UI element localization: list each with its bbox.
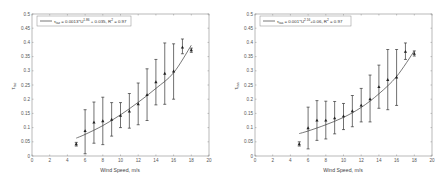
triangle-marker [101, 119, 104, 122]
x-tick-label: 16 [394, 158, 400, 163]
y-tick-label: 0.35 [244, 54, 253, 59]
chart-panel-right: 00.050.10.150.20.250.30.350.40.450.5 024… [224, 0, 447, 177]
triangle-marker [360, 104, 363, 107]
x-tick-label: 10 [118, 158, 124, 163]
axes-box [255, 14, 432, 156]
x-tick-label: 18 [412, 158, 418, 163]
y-ticks: 00.050.10.150.20.250.30.350.40.450.5 [244, 12, 432, 159]
x-tick-label: 20 [429, 158, 435, 163]
y-tick-label: 0.1 [247, 125, 254, 130]
axes-box [32, 14, 209, 156]
x-tick-label: 2 [48, 158, 51, 163]
x-tick-label: 12 [359, 158, 365, 163]
x-tick-label: 20 [206, 158, 212, 163]
triangle-marker [307, 126, 310, 129]
y-tick-label: 0.25 [21, 83, 30, 88]
y-tick-label: 0.25 [244, 83, 253, 88]
y-tick-label: 0.05 [21, 139, 30, 144]
triangle-marker [351, 109, 354, 112]
y-tick-label: 0.15 [244, 111, 253, 116]
x-tick-label: 8 [325, 158, 328, 163]
y-tick-label: 0.45 [244, 26, 253, 31]
y-tick-label: 0.5 [247, 12, 254, 17]
x-ticks: 02468101214161820 [31, 14, 212, 163]
chart-right-svg: 00.050.10.150.20.250.30.350.40.450.5 024… [224, 0, 447, 177]
y-tick-label: 0.35 [21, 54, 30, 59]
error-bars [75, 39, 193, 154]
y-tick-label: 0.3 [24, 68, 31, 73]
triangle-marker [386, 78, 389, 81]
x-tick-label: 18 [189, 158, 195, 163]
y-tick-label: 0.1 [24, 125, 31, 130]
legend: τtaz = 0.0013*U1.86 + 0.035, R2 = 0.97 [37, 16, 131, 26]
y-tick-label: 0.5 [24, 12, 31, 17]
x-tick-label: 4 [289, 158, 292, 163]
y-tick-label: 0.05 [244, 139, 253, 144]
triangle-marker [84, 129, 87, 132]
y-tick-label: 0.2 [247, 97, 254, 102]
triangle-marker [395, 76, 398, 79]
y-tick-label: 0.3 [247, 68, 254, 73]
y-axis-label: τtaa [233, 82, 240, 89]
triangle-marker [154, 80, 157, 83]
triangle-marker [190, 48, 193, 51]
y-ticks: 00.050.10.150.20.250.30.350.40.450.5 [21, 12, 209, 159]
y-tick-label: 0.45 [21, 26, 30, 31]
x-tick-label: 0 [31, 158, 34, 163]
x-tick-label: 6 [307, 158, 310, 163]
data-markers [298, 50, 416, 145]
triangle-marker [315, 119, 318, 122]
triangle-marker [368, 97, 371, 100]
x-tick-label: 0 [254, 158, 257, 163]
triangle-marker [377, 85, 380, 88]
x-tick-label: 14 [153, 158, 159, 163]
error-bars [298, 43, 416, 149]
x-tick-label: 4 [66, 158, 69, 163]
chart-panel-left: 00.050.10.150.20.250.30.350.40.450.5 024… [0, 0, 224, 177]
x-tick-label: 6 [84, 158, 87, 163]
x-tick-label: 12 [136, 158, 142, 163]
chart-left-svg: 00.050.10.150.20.250.30.350.40.450.5 024… [0, 0, 224, 177]
data-markers [75, 46, 193, 145]
triangle-marker [128, 110, 131, 113]
triangle-marker [181, 46, 184, 49]
x-axis-label: Wind Speed, m/s [100, 167, 140, 173]
triangle-marker [324, 119, 327, 122]
triangle-marker [342, 114, 345, 117]
legend: τtaa = 0.001*U2.16+0.06, R2 = 0.97 [260, 16, 351, 26]
x-tick-label: 8 [102, 158, 105, 163]
triangle-marker [404, 50, 407, 53]
x-tick-label: 16 [171, 158, 177, 163]
y-tick-label: 0.4 [247, 40, 254, 45]
y-axis-label: τtaz [10, 82, 17, 89]
y-tick-label: 0.4 [24, 40, 31, 45]
x-ticks: 02468101214161820 [254, 14, 435, 163]
triangle-marker [333, 116, 336, 119]
x-axis-label: Wind Speed, m/s [323, 167, 363, 173]
x-tick-label: 10 [341, 158, 347, 163]
triangle-marker [92, 121, 95, 124]
x-tick-label: 2 [271, 158, 274, 163]
triangle-marker [298, 142, 301, 145]
triangle-marker [163, 72, 166, 75]
y-tick-label: 0.15 [21, 111, 30, 116]
y-tick-label: 0.2 [24, 97, 31, 102]
x-tick-label: 14 [376, 158, 382, 163]
fit-curve [76, 45, 191, 138]
